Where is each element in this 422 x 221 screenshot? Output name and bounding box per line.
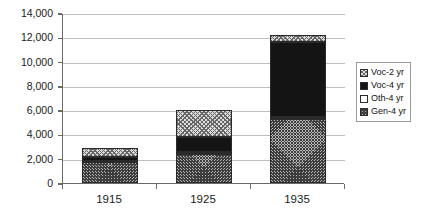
bar-segment [270, 42, 326, 117]
bar-segment [176, 110, 232, 138]
y-axis-tick-label: 10,000 [21, 57, 53, 68]
bar-segment [270, 119, 326, 183]
y-axis-tick-label: 0 [47, 178, 53, 189]
x-axis-tick-label: 1915 [79, 194, 139, 206]
legend-swatch-icon [360, 95, 368, 103]
y-axis-tick-label: 6,000 [27, 105, 53, 116]
x-axis-tick [62, 184, 63, 189]
y-axis-tick-label: 12,000 [21, 32, 53, 43]
legend-item-label: Voc-2 yr [371, 68, 404, 77]
legend-swatch-icon [360, 69, 368, 77]
legend-item-label: Oth-4 yr [371, 94, 404, 103]
bar-segment [82, 161, 138, 163]
x-axis-tick [344, 184, 345, 189]
legend-item: Oth-4 yr [360, 92, 406, 105]
bar-segment [270, 117, 326, 119]
bar-segment [82, 162, 138, 183]
legend: Voc-2 yrVoc-4 yrOth-4 yrGen-4 yr [356, 62, 411, 122]
y-axis-tick-label: 2,000 [27, 154, 53, 165]
bar-stack [270, 13, 326, 183]
plot-area [62, 14, 344, 184]
legend-item-label: Voc-4 yr [371, 81, 404, 90]
legend-item: Voc-2 yr [360, 66, 406, 79]
legend-swatch-icon [360, 82, 368, 90]
bar-segment [176, 154, 232, 183]
x-axis-tick-label: 1935 [267, 194, 327, 206]
legend-swatch-icon [360, 108, 368, 116]
legend-item: Gen-4 yr [360, 105, 406, 118]
bar-segment [82, 148, 138, 157]
y-axis-tick-label: 8,000 [27, 81, 53, 92]
y-axis-tick-label: 14,000 [21, 8, 53, 19]
bar-stack [176, 13, 232, 183]
bar-segment [82, 157, 138, 161]
x-axis-tick [156, 184, 157, 189]
stacked-bar-chart: 02,0004,0006,0008,00010,00012,00014,000 … [0, 0, 422, 221]
x-axis-tick-label: 1925 [173, 194, 233, 206]
legend-item-label: Gen-4 yr [371, 107, 406, 116]
legend-item: Voc-4 yr [360, 79, 406, 92]
bar-segment [176, 137, 232, 152]
bar-segment [270, 35, 326, 42]
x-axis-tick [250, 184, 251, 189]
y-axis-tick-label: 4,000 [27, 129, 53, 140]
bar-segment [176, 152, 232, 154]
bar-stack [82, 13, 138, 183]
